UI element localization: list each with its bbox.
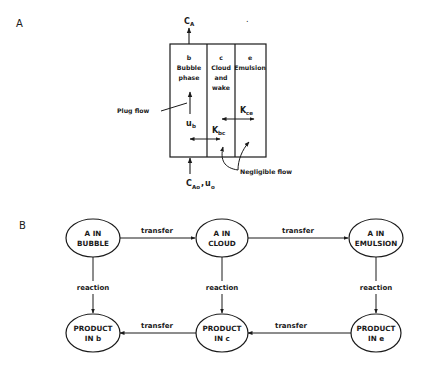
svg-text:BUBBLE: BUBBLE	[77, 239, 109, 248]
edge-label-transfer: transfer	[141, 227, 173, 235]
svg-text:Cloud: Cloud	[211, 64, 231, 71]
kce-sub: ce	[246, 110, 253, 116]
svg-text:phase: phase	[179, 74, 200, 82]
edge-label-reaction: reaction	[77, 284, 110, 292]
svg-text:b: b	[187, 54, 192, 61]
svg-text:IN b: IN b	[85, 334, 101, 343]
svg-text:CLOUD: CLOUD	[208, 239, 236, 248]
edge-label-transfer: transfer	[282, 227, 314, 235]
svg-text:Bubble: Bubble	[177, 64, 201, 71]
node-a-in-bubble: A IN BUBBLE	[66, 219, 120, 257]
node-product-in-b: PRODUCT IN b	[66, 314, 120, 352]
phase-emulsion: e Emulsion	[234, 54, 266, 71]
edge-label-reaction: reaction	[360, 284, 393, 292]
node-product-in-e: PRODUCT IN e	[351, 314, 401, 352]
svg-text:wake: wake	[212, 84, 230, 91]
svg-text:PRODUCT: PRODUCT	[74, 324, 113, 333]
svg-text:IN c: IN c	[214, 334, 229, 343]
plug-flow-label: Plug flow	[117, 107, 149, 115]
plug-flow-leader	[161, 103, 187, 111]
ub-sub: b	[192, 123, 196, 129]
edge-label-transfer: transfer	[275, 322, 307, 330]
svg-text:e: e	[248, 54, 252, 61]
svg-text:A IN: A IN	[214, 229, 231, 238]
panel-a-label: A	[16, 18, 23, 29]
bubbling-bed-model-diagram: A . C A b Bubble phase c Cloud and wake …	[0, 0, 424, 368]
svg-text:o: o	[211, 184, 215, 190]
svg-text:PRODUCT: PRODUCT	[357, 324, 396, 333]
svg-text:A IN: A IN	[368, 229, 385, 238]
svg-text:PRODUCT: PRODUCT	[203, 324, 242, 333]
node-a-in-cloud: A IN CLOUD	[196, 219, 248, 257]
svg-text:and: and	[214, 74, 227, 81]
edge-label-transfer: transfer	[141, 322, 173, 330]
svg-text:IN e: IN e	[368, 334, 384, 343]
node-a-in-emulsion: A IN EMULSION	[349, 219, 403, 257]
svg-text:,: ,	[201, 179, 204, 188]
svg-text:Emulsion: Emulsion	[234, 64, 266, 71]
negligible-flow-arrow-emulsion-icon	[238, 142, 249, 170]
node-product-in-c: PRODUCT IN c	[196, 314, 248, 352]
outlet-sub: A	[190, 21, 195, 27]
panel-a: A . C A b Bubble phase c Cloud and wake …	[16, 15, 292, 190]
negligible-flow-arrow-cloud-icon	[222, 147, 238, 170]
panel-b-label: B	[19, 220, 26, 231]
outlet-concentration: C A	[184, 17, 195, 44]
phase-bubble: b Bubble phase	[177, 54, 201, 82]
svg-text:A IN: A IN	[85, 229, 102, 238]
svg-text:EMULSION: EMULSION	[355, 239, 397, 248]
svg-text:Ao: Ao	[192, 184, 200, 190]
negligible-flow-label: Negligible flow	[240, 168, 292, 176]
svg-text:c: c	[219, 54, 223, 61]
panel-b: B A IN BUBBLE A IN CLOUD A IN EMULSION t…	[19, 219, 403, 352]
edge-label-reaction: reaction	[206, 284, 239, 292]
phase-cloud: c Cloud and wake	[211, 54, 231, 91]
stray-dot: .	[246, 15, 249, 24]
inlet-label: C Ao , u o	[186, 179, 215, 190]
kbc-sub: bc	[218, 130, 225, 136]
